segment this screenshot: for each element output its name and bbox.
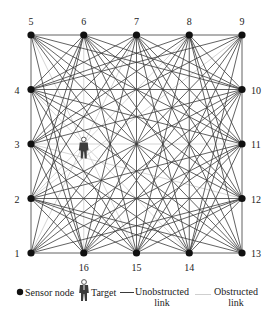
sensor-node-1: [27, 249, 34, 256]
sensor-node-12: [238, 195, 245, 202]
legend-obstructed-link-label: Obstructed link: [211, 286, 261, 308]
legend-obstructed-line1: Obstructed: [211, 286, 261, 297]
node-label-2: 2: [15, 194, 20, 205]
node-label-1: 1: [15, 248, 20, 259]
sensor-node-14: [186, 249, 193, 256]
sensor-node-8: [186, 31, 193, 38]
sensor-node-16: [80, 249, 87, 256]
node-label-6: 6: [81, 16, 86, 27]
sensor-node-2: [27, 195, 34, 202]
sensor-network-diagram: 12345678910111213141516: [0, 0, 276, 290]
node-label-16: 16: [79, 262, 89, 273]
sensor-node-legend-icon: [16, 288, 24, 296]
legend-sensor-node-label: Sensor node: [25, 287, 74, 298]
legend-unobstructed-link-label: Unobstructed link: [134, 286, 190, 308]
sensor-node-4: [27, 86, 34, 93]
node-label-7: 7: [134, 16, 139, 27]
unobstructed-link-4-16: [31, 90, 84, 254]
sensor-node-7: [133, 31, 140, 38]
legend-target-label: Target: [91, 287, 116, 298]
sensor-node-13: [238, 249, 245, 256]
sensor-node-9: [238, 31, 245, 38]
sensor-node-11: [238, 140, 245, 147]
legend-unobstructed-line2: link: [134, 297, 190, 308]
legend-unobstructed-line1: Unobstructed: [134, 286, 190, 297]
node-label-15: 15: [132, 262, 142, 273]
legend: Sensor node Target Unobstructed link Obs…: [0, 286, 276, 316]
obstructed-link-legend-line: [195, 294, 211, 295]
node-label-11: 11: [251, 139, 261, 150]
unobstructed-link-legend-line: [120, 292, 134, 293]
node-label-3: 3: [15, 139, 20, 150]
sensor-node-5: [27, 31, 34, 38]
target-legend-icon: [78, 279, 90, 303]
legend-obstructed-line2: link: [211, 297, 261, 308]
node-label-10: 10: [251, 85, 261, 96]
node-label-9: 9: [240, 16, 245, 27]
node-label-13: 13: [251, 248, 261, 259]
sensor-node-15: [133, 249, 140, 256]
unobstructed-link-12-16: [84, 199, 242, 254]
node-label-12: 12: [251, 194, 261, 205]
sensor-node-3: [27, 140, 34, 147]
sensor-node-6: [80, 31, 87, 38]
node-label-14: 14: [184, 262, 194, 273]
node-label-5: 5: [29, 16, 34, 27]
sensor-node-10: [238, 86, 245, 93]
target-head: [81, 137, 86, 142]
node-label-4: 4: [15, 85, 20, 96]
node-label-8: 8: [187, 16, 192, 27]
